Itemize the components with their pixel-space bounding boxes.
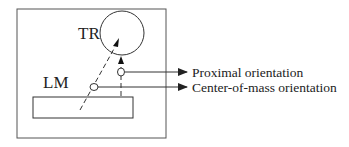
center-of-mass-dashed-line (80, 47, 115, 110)
orientation-diagram: TR LM Proximal orientation Center-of-mas… (0, 0, 349, 147)
center-of-mass-point-marker (90, 84, 98, 91)
center-of-mass-orientation-label: Center-of-mass orientation (192, 80, 337, 95)
proximal-arrowhead-icon (118, 56, 124, 64)
trajector-label: TR (78, 24, 100, 43)
proximal-point-marker (118, 68, 125, 76)
center-of-mass-arrowhead-icon (113, 38, 119, 47)
proximal-orientation-label: Proximal orientation (192, 65, 304, 80)
trajector-circle (100, 11, 144, 55)
landmark-rectangle (33, 97, 133, 118)
landmark-label: LM (43, 73, 69, 92)
